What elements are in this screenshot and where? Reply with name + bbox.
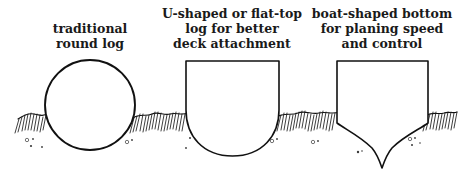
pebble [185,147,187,149]
caption-line: for planing speed [321,21,444,36]
pebble [317,140,319,142]
caption-line: U-shaped or flat-top [162,6,302,21]
caption-line: and control [342,36,423,51]
pebble [30,145,32,147]
cross-section-diagram: traditional round log U-shaped or flat-t… [0,0,463,178]
pebble [357,151,359,153]
pebble [189,137,191,139]
pebble [361,150,363,152]
caption-line: boat-shaped bottom [312,6,452,21]
pebble [32,138,34,140]
caption-line: round log [56,36,124,51]
pebble [411,144,413,146]
pebble [41,146,43,148]
round-log-cross-section [45,60,135,150]
pebble [131,139,133,141]
caption-line: log for better [185,21,279,36]
pebble [419,142,421,144]
pebble [276,138,278,140]
pebble [414,137,416,139]
u-shaped-log-cross-section [186,61,279,156]
caption-round-log: traditional round log [53,21,128,51]
caption-line: deck attachment [173,36,291,51]
caption-line: traditional [53,21,128,36]
